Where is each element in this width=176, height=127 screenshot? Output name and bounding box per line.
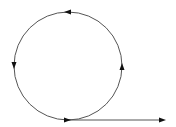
arrow-right-icon <box>64 118 71 123</box>
loop-circle <box>14 12 122 120</box>
arrow-down-icon <box>12 62 17 69</box>
loop-diagram <box>0 0 176 127</box>
tangent-arrow-icon <box>159 118 166 123</box>
arrow-up-icon <box>120 63 125 70</box>
arrow-left-icon <box>64 10 71 15</box>
